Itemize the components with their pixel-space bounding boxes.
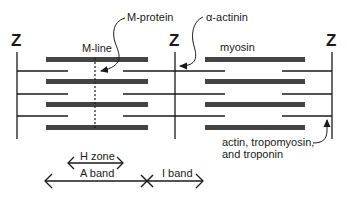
alpha-actinin-label: α-actinin — [206, 11, 248, 23]
z-label-middle: Z — [169, 31, 179, 50]
thin-filament-label-line2: and troponin — [222, 148, 283, 160]
a-band-label: A band — [80, 167, 114, 179]
h-zone-label: H zone — [80, 150, 115, 162]
z-label-left: Z — [11, 31, 21, 50]
myosin-label: myosin — [220, 41, 255, 53]
m-protein-label: M-protein — [127, 11, 173, 23]
thin-filament-label-line1: actin, tropomyosin, — [222, 136, 314, 148]
sarcomere-diagram: Z Z Z M-line M-protein α-actinin myosin — [0, 0, 347, 201]
m-line-label: M-line — [82, 42, 112, 54]
z-label-right: Z — [326, 31, 336, 50]
thin-filament-arrow-icon — [313, 120, 327, 143]
i-band-label: I band — [162, 167, 193, 179]
alpha-actinin-arrow-icon — [180, 17, 203, 66]
